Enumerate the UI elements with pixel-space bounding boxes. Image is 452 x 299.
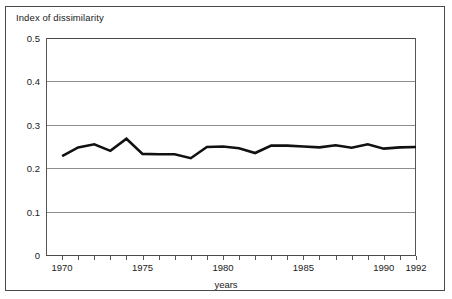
x-tick-label: 1980	[212, 262, 233, 273]
x-tick-mark	[207, 256, 208, 260]
y-axis-title: Index of dissimilarity	[16, 12, 104, 23]
x-tick-mark	[175, 256, 176, 260]
x-tick-mark	[336, 256, 337, 260]
x-tick-mark	[303, 256, 304, 260]
series-line-chart	[46, 38, 416, 255]
y-tick-label: 0.5	[27, 33, 40, 44]
x-tick-label: 1970	[52, 262, 73, 273]
x-tick-label: 1975	[132, 262, 153, 273]
x-tick-mark	[78, 256, 79, 260]
y-tick-label: 0.1	[27, 206, 40, 217]
y-tick-label: 0.2	[27, 163, 40, 174]
series-line	[62, 139, 416, 159]
x-tick-mark	[191, 256, 192, 260]
x-tick-mark	[239, 256, 240, 260]
x-axis-title: years	[0, 279, 452, 290]
x-tick-mark	[271, 256, 272, 260]
x-tick-mark	[352, 256, 353, 260]
x-tick-mark	[110, 256, 111, 260]
x-tick-mark	[223, 256, 224, 260]
y-tick-label: 0.3	[27, 119, 40, 130]
y-tick-label: 0	[35, 250, 40, 261]
x-axis-ticks	[46, 256, 416, 261]
x-tick-mark	[94, 256, 95, 260]
x-tick-mark	[126, 256, 127, 260]
x-tick-mark	[368, 256, 369, 260]
x-tick-label: 1985	[293, 262, 314, 273]
chart-figure: Index of dissimilarity 00.10.20.30.40.5 …	[0, 0, 452, 299]
y-axis-tick-labels: 00.10.20.30.40.5	[8, 38, 40, 255]
x-tick-mark	[143, 256, 144, 260]
x-tick-mark	[416, 256, 417, 260]
x-tick-mark	[287, 256, 288, 260]
x-tick-mark	[255, 256, 256, 260]
y-tick-label: 0.4	[27, 76, 40, 87]
x-tick-mark	[62, 256, 63, 260]
x-tick-mark	[384, 256, 385, 260]
x-tick-label: 1992	[405, 262, 426, 273]
x-tick-label: 1990	[373, 262, 394, 273]
plot-area	[46, 38, 416, 255]
x-tick-mark	[400, 256, 401, 260]
x-tick-mark	[159, 256, 160, 260]
x-tick-mark	[319, 256, 320, 260]
x-axis-tick-labels: 197019751980198519901992	[46, 262, 416, 276]
